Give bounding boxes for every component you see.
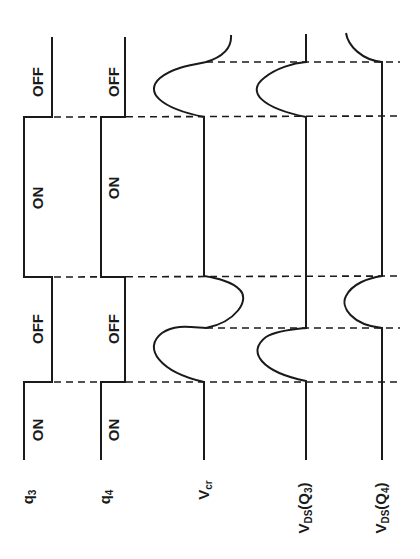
q4-state-3: ON [105, 177, 122, 200]
q4-waveform [101, 37, 125, 460]
ref-line-3 [54, 276, 400, 277]
vds-q3-waveform [257, 34, 306, 460]
q3-state-1: ON [29, 419, 46, 442]
q3-waveform [24, 37, 52, 460]
q3-state-4: OFF [29, 67, 46, 97]
q3-state-3: ON [29, 187, 46, 210]
vcr-label: Vcr [195, 480, 214, 500]
vds-q3-label: VDS(Q3) [295, 482, 314, 533]
ref-line-4 [54, 116, 400, 117]
q3-label: q3 [19, 489, 38, 504]
q4-state-4: OFF [105, 67, 122, 97]
q4-state-2: OFF [105, 314, 122, 344]
vds-q4-label: VDS(Q4) [372, 482, 391, 533]
vds-q4-waveform [345, 33, 383, 460]
q4-label: q4 [96, 489, 115, 504]
q3-state-2: OFF [29, 314, 46, 344]
vcr-waveform [154, 35, 243, 460]
q4-state-1: ON [105, 419, 122, 442]
timing-diagram: ON OFF ON OFF ON OFF ON OFF q3 q4 Vcr VD… [0, 0, 420, 559]
